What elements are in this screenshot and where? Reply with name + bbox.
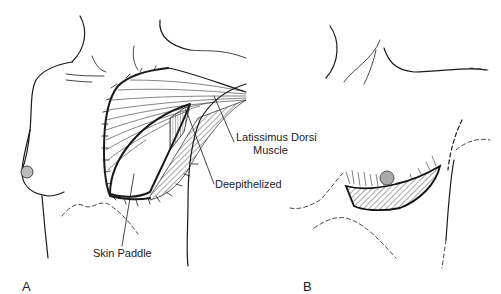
label-skin-paddle: Skin Paddle [93,247,152,259]
panel-label-a: A [22,279,31,294]
leader-skin-paddle [122,174,134,246]
panel-label-b: B [303,279,312,294]
panel-a-drawing [21,16,246,266]
panel-b-drawing [290,26,490,268]
illustration-canvas [0,0,501,294]
nipple-b [380,171,394,185]
nipple-a [21,166,33,178]
label-deepithelized: Deepithelized [215,178,282,190]
flap-inset [346,166,440,210]
label-latissimus-dorsi: Latissimus Dorsi [236,131,317,143]
label-muscle: Muscle [253,144,288,156]
